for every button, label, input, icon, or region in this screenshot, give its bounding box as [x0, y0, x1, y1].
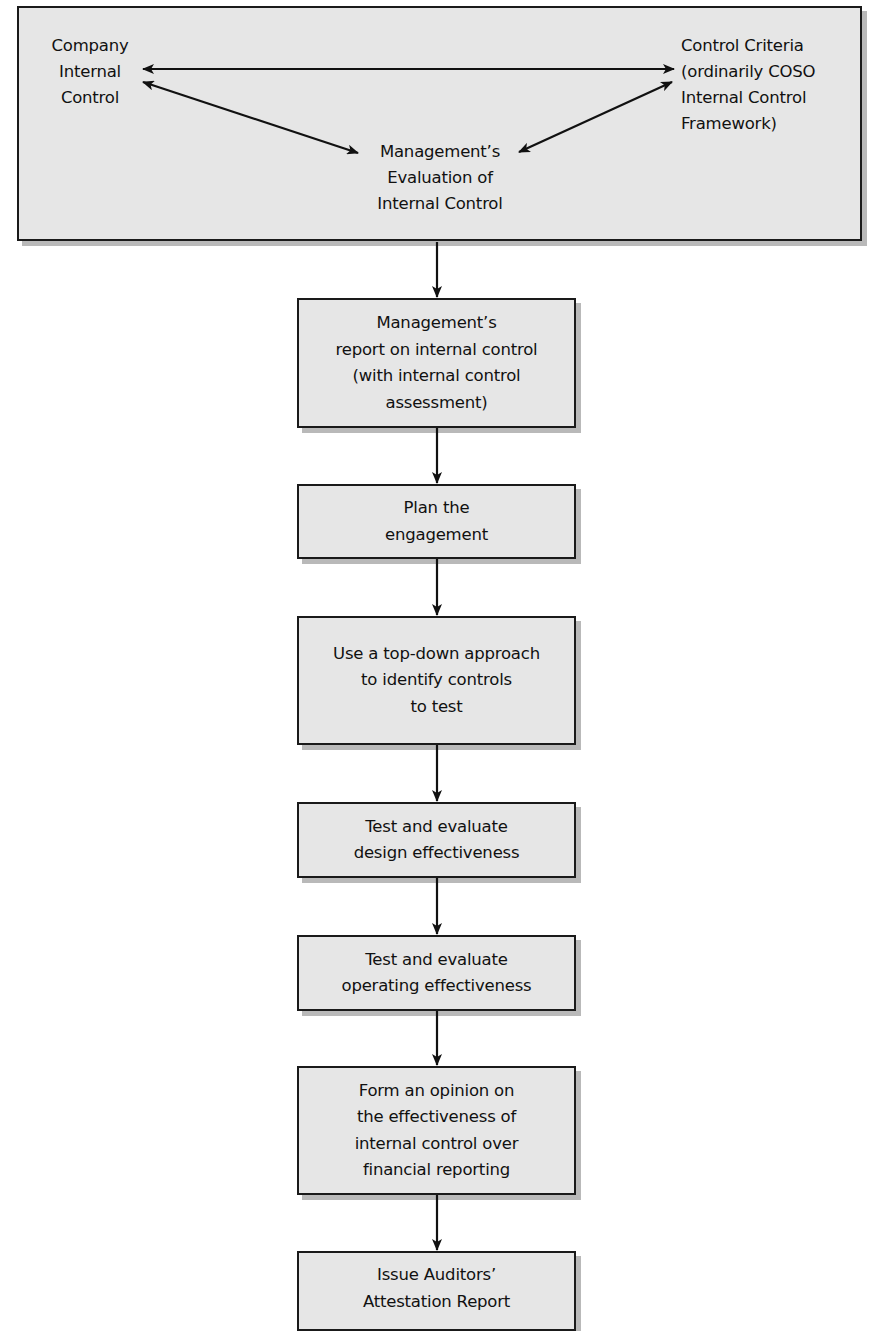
step-plan-engagement: Plan the engagement	[297, 484, 576, 559]
step-issue-attestation-report-label: Issue Auditors’ Attestation Report	[363, 1262, 510, 1315]
step-operating-effectiveness-label: Test and evaluate operating effectivenes…	[341, 947, 531, 1000]
step-issue-attestation-report: Issue Auditors’ Attestation Report	[297, 1251, 576, 1331]
step-top-down-approach: Use a top-down approach to identify cont…	[297, 616, 576, 745]
management-evaluation-label: Management’s Evaluation of Internal Cont…	[340, 139, 540, 217]
step-management-report-label: Management’s report on internal control …	[336, 310, 538, 416]
step-design-effectiveness: Test and evaluate design effectiveness	[297, 802, 576, 878]
control-criteria-label: Control Criteria (ordinarily COSO Intern…	[681, 33, 861, 137]
step-design-effectiveness-label: Test and evaluate design effectiveness	[354, 814, 520, 867]
step-form-opinion-label: Form an opinion on the effectiveness of …	[355, 1078, 519, 1184]
company-internal-control-label: Company Internal Control	[40, 33, 140, 111]
step-top-down-approach-label: Use a top-down approach to identify cont…	[333, 641, 540, 721]
step-form-opinion: Form an opinion on the effectiveness of …	[297, 1066, 576, 1195]
step-management-report: Management’s report on internal control …	[297, 298, 576, 428]
step-plan-engagement-label: Plan the engagement	[385, 495, 488, 548]
step-operating-effectiveness: Test and evaluate operating effectivenes…	[297, 935, 576, 1011]
